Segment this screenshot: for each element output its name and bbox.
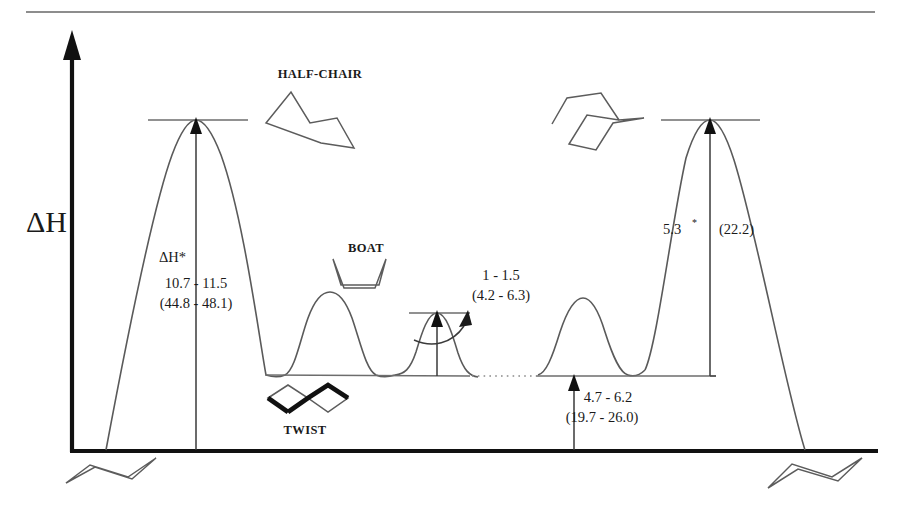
y-axis-title: ΔH	[26, 205, 67, 238]
right-barrier-superscript: *	[692, 217, 697, 228]
energy-diagram-figure: ΔH	[0, 0, 901, 517]
boat-ring	[333, 259, 386, 288]
structure-half-chair-left: HALF-CHAIR	[266, 67, 363, 148]
curve-central-boat	[266, 292, 395, 377]
left-barrier-symbol: ΔH*	[159, 249, 186, 265]
twist-bold-bond-a	[268, 398, 288, 412]
chair-left-ring	[66, 458, 156, 483]
y-axis-arrowhead	[63, 30, 81, 60]
twist-ring-right-face	[308, 385, 348, 412]
chair-to-twist-kj: (19.7 - 26.0)	[566, 409, 639, 426]
annotation-small-barrier: 1 - 1.5 (4.2 - 6.3)	[472, 267, 530, 304]
twist-ring-left-face	[268, 385, 308, 412]
annotation-chair-to-twist: 4.7 - 6.2 (19.7 - 26.0)	[566, 389, 639, 426]
left-barrier-kj: (44.8 - 48.1)	[160, 295, 233, 312]
structure-chair-right	[768, 458, 862, 488]
twist-baseline-left	[265, 375, 470, 376]
right-barrier-kcal: 5.3	[663, 221, 681, 237]
small-barrier-kcal: 1 - 1.5	[482, 267, 519, 283]
boat-label: BOAT	[348, 241, 384, 255]
half-chair-right-upper	[552, 93, 619, 124]
small-barrier-kj: (4.2 - 6.3)	[472, 287, 530, 304]
reaction-coordinate-diagram: ΔH	[0, 0, 901, 517]
structure-chair-left	[66, 458, 156, 483]
structure-twist: TWIST	[268, 385, 348, 437]
right-barrier-kj: (22.2)	[719, 221, 754, 238]
left-barrier-kcal: 10.7 - 11.5	[165, 275, 227, 291]
half-chair-left-label: HALF-CHAIR	[278, 67, 363, 81]
chair-right-ring	[768, 458, 862, 488]
twist-bold-bond-b	[288, 385, 348, 412]
annotation-right-barrier: 5.3 * (22.2)	[663, 217, 754, 238]
curve-right-barrier	[645, 120, 805, 450]
half-chair-right-ring	[569, 115, 644, 150]
half-chair-left-ring	[266, 92, 354, 148]
twist-label: TWIST	[284, 423, 327, 437]
curve-right-boat	[538, 298, 645, 376]
chair-to-twist-kcal: 4.7 - 6.2	[584, 389, 632, 405]
structure-boat: BOAT	[333, 241, 386, 288]
structure-half-chair-right	[552, 93, 644, 150]
